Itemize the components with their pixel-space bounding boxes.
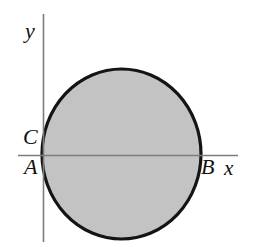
point-label-a: A <box>24 156 37 178</box>
point-label-c: C <box>23 126 38 148</box>
point-label-b: B <box>201 156 214 178</box>
x-axis-label: x <box>224 158 233 179</box>
geometry-figure: y C A B x <box>0 0 256 247</box>
figure-canvas <box>0 0 256 247</box>
y-axis-label: y <box>25 20 35 42</box>
shaded-circle-region <box>42 69 201 239</box>
